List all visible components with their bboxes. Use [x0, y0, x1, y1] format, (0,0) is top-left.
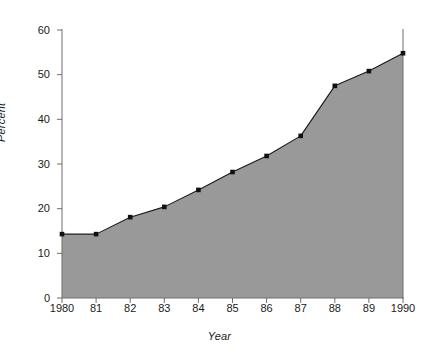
- area-chart: Percent Year 0102030405060 1980818283848…: [0, 0, 439, 358]
- area-fill: [62, 53, 403, 298]
- plot-canvas: [0, 0, 439, 358]
